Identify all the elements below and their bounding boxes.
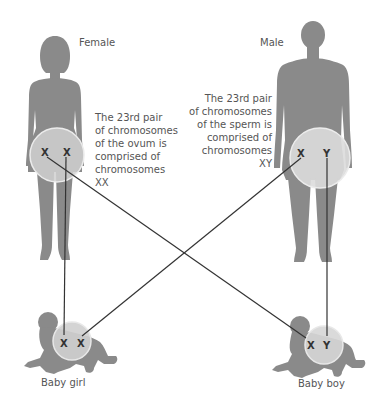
baby-girl-chromosome-2: X <box>77 338 85 349</box>
female-chromosome-1: X <box>41 147 49 158</box>
baby-girl-label: Baby girl <box>41 377 85 388</box>
baby-boy-label: Baby boy <box>298 378 345 389</box>
male-chromosome-2: Y <box>322 148 331 159</box>
baby-girl-chromosome-circle <box>53 322 91 360</box>
female-label: Female <box>79 37 115 48</box>
female-chromosome-circle <box>30 128 84 182</box>
baby-boy-chromosome-1: X <box>307 340 315 351</box>
female-chromosome-2: X <box>63 147 71 158</box>
male-chromosome-1: X <box>297 148 305 159</box>
baby-girl-chromosome-1: X <box>60 338 68 349</box>
male-label: Male <box>260 37 284 48</box>
female-description: The 23rd pair of chromosomes of the ovum… <box>95 111 178 189</box>
baby-boy-chromosome-2: Y <box>322 340 331 351</box>
inheritance-diagram: X X X Y X X X Y <box>0 0 381 404</box>
male-description: The 23rd pair of chromosomes of the sper… <box>189 92 272 170</box>
inheritance-lines <box>47 157 327 338</box>
